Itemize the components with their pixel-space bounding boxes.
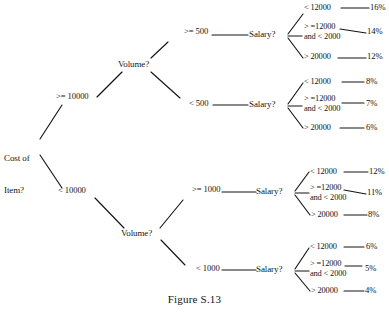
leaf-value-g3-3: 8%: [368, 210, 379, 220]
edge-salary-b-leaf1: [288, 83, 303, 104]
leaf-label-g4-2-line2: and < 2000: [310, 269, 346, 278]
edge-volume-lower-high-seg1: [160, 200, 183, 228]
edge-volume-upper-high-seg1: [151, 42, 168, 58]
branch-label-volume-upper-high: >= 500: [184, 27, 208, 37]
edge-root-to-volume-lower-seg1: [40, 155, 62, 188]
edge-salary-d-leaf3: [295, 273, 310, 291]
decision-tree-figure: Cost of Item? >= 10000 < 10000 Volume? V…: [0, 0, 389, 315]
leaf-label-g4-1: < 12000: [310, 242, 337, 251]
leaf-value-g1-3: 12%: [367, 52, 382, 62]
node-volume-lower: Volume?: [121, 228, 152, 239]
leaf-label-g3-2-line1: > =12000: [310, 183, 341, 192]
leaf-value-g2-2: 7%: [366, 99, 377, 109]
edge-salary-a-leaf1: [288, 14, 303, 34]
node-salary-c: Salary?: [256, 186, 282, 197]
edge-root-to-volume-upper-seg1: [40, 105, 62, 139]
edge-volume-upper-low-seg1: [151, 72, 180, 98]
leaf-value-g1-2: 14%: [367, 27, 382, 37]
edge-salary-d-leaf1: [295, 248, 309, 269]
leaf-value-g3-1: 12%: [369, 167, 384, 177]
edge-salary-c-leaf1: [295, 172, 309, 191]
leaf-label-g3-3: > 20000: [311, 210, 338, 219]
figure-caption: Figure S.13: [0, 293, 389, 305]
leaf-label-g2-2-line2: and < 2000: [304, 104, 340, 113]
leaf-label-g4-2-line1: > =12000: [310, 259, 341, 268]
branch-label-volume-lower-high: >= 1000: [192, 185, 220, 195]
leaf-label-g1-3: > 20000: [304, 52, 331, 61]
edge-salary-c-leaf3: [295, 195, 310, 215]
leaf-label-g3-1: < 12000: [310, 167, 337, 176]
leaf-label-g3-2-line2: and < 2000: [310, 193, 346, 202]
node-root-line1: Cost of: [4, 153, 30, 164]
leaf-value-g2-3: 6%: [366, 123, 377, 133]
leaf-label-g2-3: > 20000: [304, 123, 331, 132]
leaf-value-g3-2: 11%: [367, 188, 382, 198]
leaf-label-g2-2-line1: > =12000: [304, 94, 335, 103]
node-salary-a: Salary?: [249, 29, 275, 40]
edge-root-to-volume-lower-seg2: [95, 198, 124, 228]
leaf-value-g2-1: 8%: [366, 77, 377, 87]
edge-volume-lower-low-seg1: [161, 240, 185, 265]
leaf-label-g1-2-line2: and < 2000: [304, 32, 340, 41]
leaf-value-g4-1: 6%: [366, 242, 377, 252]
node-root: Cost of Item?: [4, 132, 30, 216]
branch-label-volume-lower-low: < 1000: [196, 264, 220, 274]
leaf-value-g1-1: 16%: [370, 3, 385, 13]
leaf-label-g1-2-line1: > =12000: [304, 22, 335, 31]
leaf-value-g4-2: 5%: [365, 264, 376, 274]
connector-c-2: [344, 190, 366, 194]
edge-salary-b-leaf3: [288, 108, 303, 128]
leaf-label-g1-1: < 12000: [304, 3, 331, 12]
edge-root-to-volume-upper-seg2: [97, 72, 122, 97]
node-salary-b: Salary?: [249, 99, 275, 110]
leaf-label-g2-1: < 12000: [304, 77, 331, 86]
branch-label-volume-upper-low: < 500: [189, 99, 208, 109]
edge-salary-a-leaf3: [288, 38, 303, 58]
branch-label-root-high: >= 10000: [56, 92, 89, 102]
branch-label-root-low: < 10000: [58, 186, 86, 196]
connector-a-2: [340, 29, 366, 33]
node-volume-upper: Volume?: [118, 59, 149, 70]
node-salary-d: Salary?: [256, 264, 282, 275]
node-root-line2: Item?: [4, 185, 30, 196]
